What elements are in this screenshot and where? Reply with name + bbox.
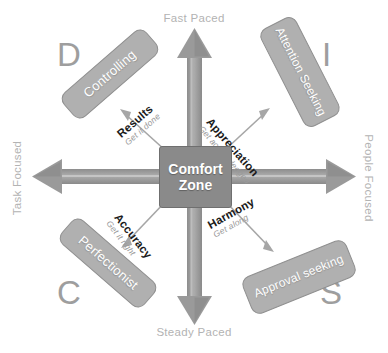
comfort-zone-line2: Zone <box>179 177 212 193</box>
comfort-zone-box[interactable]: Comfort Zone <box>159 146 232 208</box>
quadrant-letter-i: I <box>322 38 331 71</box>
disc-diagram: Fast Paced Steady Paced Task Focused Peo… <box>0 0 388 353</box>
quadrant-letter-c: C <box>57 276 81 309</box>
quadrant-letter-d: D <box>57 38 81 71</box>
comfort-zone-line1: Comfort <box>168 161 222 177</box>
